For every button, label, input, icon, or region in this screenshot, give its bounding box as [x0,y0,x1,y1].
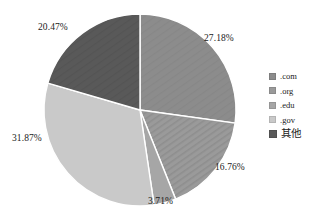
legend-label-com: .com [280,72,297,81]
legend-swatch-icon [269,102,276,109]
legend-item-com[interactable]: .com [269,69,322,84]
data-label-gov: 31.87% [12,133,42,143]
legend-label-org: .org [280,87,293,96]
data-label-com: 27.18% [204,33,234,43]
legend-swatch-icon [269,116,276,123]
legend-label-gov: .gov [280,116,295,125]
legend-item-edu[interactable]: .edu [269,98,322,113]
legend: .com .org .edu .gov 其他 [269,69,322,142]
legend-swatch-icon [269,87,276,94]
pie-chart: 27.18% 16.76% 3.71% 31.87% 20.47% .com .… [0,0,322,220]
pie-slice-com[interactable] [140,14,236,123]
legend-item-gov[interactable]: .gov [269,113,322,128]
legend-label-other: 其他 [281,129,301,140]
legend-swatch-icon [269,130,277,138]
data-label-other: 20.47% [38,22,68,32]
pie-plot-area: 27.18% 16.76% 3.71% 31.87% 20.47% [0,0,262,220]
data-label-org: 16.76% [215,162,245,172]
legend-label-edu: .edu [280,101,294,110]
legend-item-org[interactable]: .org [269,84,322,99]
legend-item-other[interactable]: 其他 [269,127,322,142]
data-label-edu: 3.71% [148,196,173,206]
legend-swatch-icon [269,73,276,80]
